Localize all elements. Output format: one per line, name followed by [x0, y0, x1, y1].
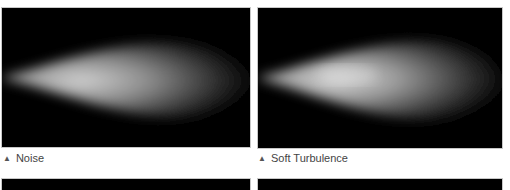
caption-text: Soft Turbulence	[271, 152, 348, 164]
caption-soft-turbulence: ▲ Soft Turbulence	[258, 152, 348, 164]
figure-noise-image	[1, 7, 251, 148]
triangle-up-icon: ▲	[258, 154, 266, 163]
triangle-up-icon: ▲	[3, 154, 11, 163]
figure-next-right-image	[257, 178, 503, 190]
smoke-plume-noise	[2, 8, 250, 147]
figure-soft-turbulence-image	[257, 7, 503, 149]
caption-noise: ▲ Noise	[3, 152, 44, 164]
caption-text: Noise	[16, 152, 44, 164]
smoke-plume-soft-turbulence	[258, 8, 502, 148]
figure-next-left-image	[1, 178, 251, 190]
